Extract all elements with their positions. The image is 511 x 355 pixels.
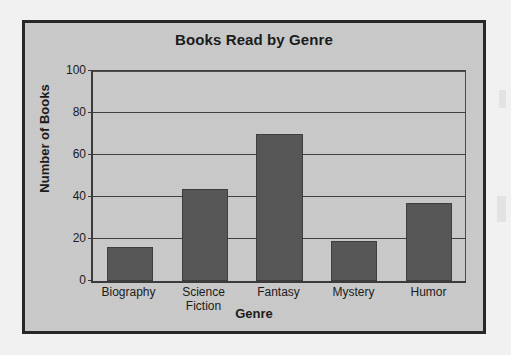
bar-slot xyxy=(317,71,392,281)
chart-title: Books Read by Genre xyxy=(25,31,483,48)
y-axis-tick-label: 60 xyxy=(73,147,86,161)
bar[interactable] xyxy=(256,134,302,281)
bar-slot xyxy=(93,71,168,281)
x-axis-title: Genre xyxy=(25,306,483,321)
scan-artifact xyxy=(499,90,506,108)
scan-artifact xyxy=(497,196,506,222)
bar[interactable] xyxy=(331,241,377,281)
y-axis-tick-label: 100 xyxy=(66,63,86,77)
bar[interactable] xyxy=(406,203,452,281)
y-axis-tick-label: 80 xyxy=(73,105,86,119)
chart-frame: Books Read by Genre Number of Books 0204… xyxy=(22,20,486,334)
y-axis-tick-label: 40 xyxy=(73,189,86,203)
bar-slot xyxy=(168,71,243,281)
y-axis-tick-label: 0 xyxy=(79,273,86,287)
x-axis-tick-label-line: Humor xyxy=(391,285,466,299)
bar-slot xyxy=(242,71,317,281)
y-axis-title: Number of Books xyxy=(37,64,52,214)
x-axis-tick-label-line: Biography xyxy=(91,285,166,299)
bar-slot xyxy=(391,71,466,281)
bar[interactable] xyxy=(182,189,228,281)
bar[interactable] xyxy=(107,247,153,281)
x-axis-tick-label-line: Science xyxy=(166,285,241,299)
x-axis-tick-label-line: Fantasy xyxy=(241,285,316,299)
y-axis-tick-label: 20 xyxy=(73,231,86,245)
plot-area: 020406080100 xyxy=(91,71,466,283)
bars-group xyxy=(93,71,466,281)
x-axis-tick-label-line: Mystery xyxy=(316,285,391,299)
